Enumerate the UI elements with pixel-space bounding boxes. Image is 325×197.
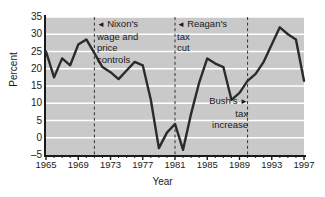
annotation-line: cut — [177, 42, 227, 54]
x-axis-tick-label: 1965 — [29, 159, 63, 170]
plot-svg — [46, 17, 304, 155]
annotation-text: Bush's — [209, 95, 240, 106]
annotation-line: tax — [186, 108, 248, 120]
annotation-line: ◄ Nixon's — [97, 18, 138, 31]
x-axis-tick-label: 1969 — [61, 159, 95, 170]
annotation-arrow-icon: ◄ — [177, 20, 187, 29]
annotation-reagan: ◄ Reagan'staxcut — [177, 18, 227, 54]
annotation-line: tax — [177, 31, 227, 43]
plot-area — [46, 17, 304, 155]
annotation-line: increase — [186, 119, 248, 131]
annotation-nixon: ◄ Nixon'swage andpricecontrols — [97, 18, 138, 65]
annotation-line: ◄ Reagan's — [177, 18, 227, 31]
x-axis-tick-label: 1997 — [287, 159, 321, 170]
x-axis-label: Year — [0, 176, 325, 187]
y-axis-tick-label: 5 — [8, 116, 42, 126]
annotation-text: Nixon's — [107, 18, 138, 29]
y-axis-label: Percent — [8, 35, 19, 105]
y-axis-tick-label: 0 — [8, 133, 42, 143]
x-axis-tick-label: 1973 — [94, 159, 128, 170]
chart-figure: 35302520151050–5 Percent 196519691973197… — [0, 0, 325, 197]
x-axis-tick-label: 1985 — [190, 159, 224, 170]
annotation-text: Reagan's — [187, 18, 227, 29]
annotation-line: Bush's ► — [186, 95, 248, 108]
x-axis-tick-label: 1989 — [223, 159, 257, 170]
annotation-arrow-icon: ► — [240, 97, 248, 106]
annotation-arrow-icon: ◄ — [97, 20, 107, 29]
annotation-line: controls — [97, 54, 138, 66]
y-axis-tick-label: 35 — [8, 12, 42, 22]
annotation-line: price — [97, 42, 138, 54]
x-axis-tick-label: 1981 — [158, 159, 192, 170]
annotation-line: wage and — [97, 31, 138, 43]
annotation-bush: Bush's ►taxincrease — [186, 95, 248, 131]
x-axis-tick-label: 1977 — [126, 159, 160, 170]
x-axis-tick-label: 1993 — [255, 159, 289, 170]
